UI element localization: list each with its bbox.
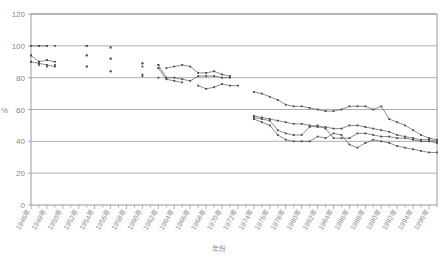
data-point-marker — [341, 109, 343, 111]
data-point-marker — [173, 77, 175, 79]
data-point-marker — [229, 75, 231, 77]
data-point-marker — [181, 64, 183, 66]
scatter-point-marker — [110, 47, 112, 49]
data-point-marker — [261, 117, 263, 119]
data-point-marker — [181, 78, 183, 80]
scatter-point-marker — [157, 77, 159, 79]
data-point-marker — [253, 118, 255, 120]
data-point-marker — [253, 117, 255, 119]
data-point-marker — [277, 99, 279, 101]
scatter-point-marker — [38, 64, 40, 66]
data-point-marker — [165, 78, 167, 80]
data-point-marker — [205, 72, 207, 74]
data-point-marker — [293, 134, 295, 136]
scatter-point-marker — [30, 61, 32, 63]
data-point-marker — [333, 128, 335, 130]
data-point-marker — [293, 140, 295, 142]
data-point-marker — [380, 129, 382, 131]
y-axis-title: % — [1, 106, 8, 115]
series-4 — [253, 118, 438, 153]
data-point-marker — [372, 128, 374, 130]
data-point-marker — [285, 121, 287, 123]
data-point-marker — [404, 136, 406, 138]
data-point-marker — [396, 137, 398, 139]
data-point-marker — [428, 152, 430, 154]
data-point-marker — [221, 77, 223, 79]
data-point-marker — [333, 137, 335, 139]
data-point-marker — [309, 107, 311, 109]
scatter-point-marker — [46, 45, 48, 47]
y-tick-label: 100 — [12, 42, 26, 51]
data-point-marker — [301, 105, 303, 107]
data-point-marker — [277, 120, 279, 122]
data-point-marker — [428, 140, 430, 142]
data-point-marker — [317, 109, 319, 111]
data-point-marker — [436, 140, 438, 142]
data-series-group — [30, 45, 438, 153]
data-point-marker — [269, 118, 271, 120]
data-point-marker — [325, 128, 327, 130]
series-polyline — [31, 55, 55, 61]
data-point-marker — [261, 118, 263, 120]
data-point-marker — [333, 132, 335, 134]
data-point-marker — [364, 132, 366, 134]
y-tick-label: 80 — [16, 74, 25, 83]
scatter-point-marker — [38, 61, 40, 63]
series-polyline — [254, 119, 437, 152]
data-point-marker — [341, 128, 343, 130]
data-point-marker — [356, 132, 358, 134]
scatter-point-marker — [142, 75, 144, 77]
y-tick-label: 60 — [16, 106, 25, 115]
data-point-marker — [213, 86, 215, 88]
data-point-marker — [173, 80, 175, 82]
data-point-marker — [404, 137, 406, 139]
data-point-marker — [388, 118, 390, 120]
scatter-point-marker — [86, 66, 88, 68]
data-point-marker — [221, 74, 223, 76]
data-point-marker — [285, 104, 287, 106]
data-point-marker — [301, 140, 303, 142]
data-point-marker — [181, 82, 183, 84]
data-point-marker — [404, 147, 406, 149]
data-point-marker — [364, 142, 366, 144]
data-point-marker — [356, 105, 358, 107]
data-point-marker — [325, 137, 327, 139]
series-2 — [30, 54, 438, 142]
scatter-point-marker — [54, 64, 56, 66]
data-point-marker — [420, 139, 422, 141]
data-point-marker — [229, 85, 231, 87]
data-point-marker — [293, 123, 295, 125]
data-point-marker — [420, 150, 422, 152]
data-point-marker — [197, 75, 199, 77]
data-point-marker — [46, 64, 48, 66]
data-point-marker — [142, 74, 144, 76]
series-polyline — [31, 62, 55, 67]
data-point-marker — [285, 132, 287, 134]
data-point-marker — [221, 83, 223, 85]
data-point-marker — [420, 140, 422, 142]
line-chart: 020406080100120 1946年1948年1950年1952年1954… — [0, 0, 447, 256]
data-point-marker — [269, 96, 271, 98]
data-point-marker — [412, 139, 414, 141]
data-point-marker — [189, 80, 191, 82]
data-point-marker — [229, 77, 231, 79]
data-point-marker — [372, 134, 374, 136]
data-point-marker — [309, 125, 311, 127]
data-point-marker — [372, 109, 374, 111]
scatter-point-marker — [86, 45, 88, 47]
data-point-marker — [269, 120, 271, 122]
scatter-point-marker — [38, 45, 40, 47]
data-point-marker — [317, 136, 319, 138]
x-axis-ticks-group: 1946年1948年1950年1952年1954年1956年1958年1960年… — [14, 205, 437, 232]
x-tick-label: 1996年 — [412, 208, 431, 232]
data-point-marker — [428, 139, 430, 141]
y-tick-label: 120 — [12, 10, 26, 19]
data-point-marker — [301, 123, 303, 125]
data-point-marker — [173, 66, 175, 68]
data-point-marker — [301, 134, 303, 136]
scatter-points-group — [30, 45, 159, 79]
y-axis-ticks-group: 020406080100120 — [12, 10, 31, 210]
x-axis-title: 年份 — [212, 244, 226, 253]
scatter-point-marker — [46, 66, 48, 68]
data-point-marker — [412, 129, 414, 131]
